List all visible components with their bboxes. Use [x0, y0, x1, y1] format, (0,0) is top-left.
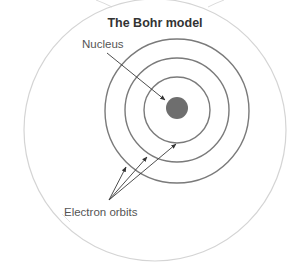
nucleus-circle — [166, 97, 188, 119]
arrows-group — [107, 53, 176, 200]
electron-orbits-label: Electron orbits — [64, 206, 138, 218]
faint-arc-left — [96, 0, 112, 7]
diagram-title: The Bohr model — [107, 16, 202, 30]
faint-arc-right — [208, 0, 224, 7]
bohr-model-diagram: The Bohr model Nucleus Electron orbits — [0, 0, 306, 269]
nucleus-arrow — [107, 53, 165, 100]
orbit-arrow-3 — [109, 144, 176, 200]
nucleus-label: Nucleus — [82, 38, 124, 50]
